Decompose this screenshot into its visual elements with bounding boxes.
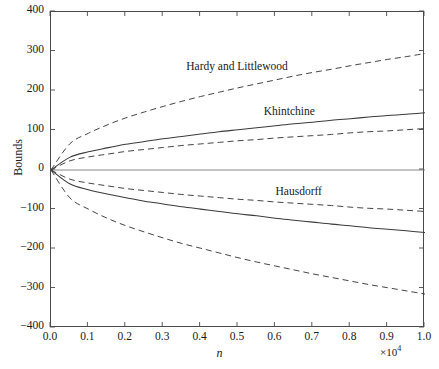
y-axis-tick-label: −200 [0,240,44,252]
series-line-hausdorff-upper [51,129,425,170]
y-axis-label: Bounds [11,118,26,198]
x-axis-tick-label: 0.0 [43,330,57,342]
x-axis-tick-label: 0.1 [80,330,94,342]
x-axis-tick-label: 0.5 [230,330,244,342]
x-axis-tick-label: 0.2 [118,330,132,342]
y-axis-tick-label: 300 [0,43,44,55]
y-axis-tick-label: 200 [0,82,44,94]
series-line-khintchine-upper [51,113,425,170]
chart-figure: 4003002001000−100−200−300−400 Bounds 0.0… [0,0,439,369]
series-line-khintchine-lower [51,170,425,232]
x-axis-tick-label: 0.4 [192,330,206,342]
series-annotation-hausdorff: Hausdorff [275,185,321,197]
x-axis-tick-label: 0.7 [305,330,319,342]
series-annotation-hardy-and-littlewood: Hardy and Littlewood [186,60,288,72]
series-annotation-khintchine: Khintchine [264,105,315,117]
y-axis-tick-label: −300 [0,280,44,292]
series-line-hardy-and-littlewood-lower [51,170,425,294]
x-axis-tick-label: 0.8 [342,330,356,342]
x-axis-tick-label: 1.0 [417,330,431,342]
x-axis-tick-label: 0.6 [267,330,281,342]
series-line-hausdorff-lower [51,170,425,211]
x-axis-multiplier-exponent: 4 [397,344,401,353]
x-axis-multiplier-base: ×10 [380,346,397,358]
x-axis-multiplier: ×104 [380,344,401,358]
plot-area [50,11,424,327]
x-axis-label: n [0,346,439,361]
y-axis-tick-label: 400 [0,3,44,15]
x-axis-tick-label: 0.9 [379,330,393,342]
x-axis-tick-label: 0.3 [155,330,169,342]
y-axis-tick-label: −100 [0,201,44,213]
